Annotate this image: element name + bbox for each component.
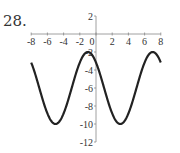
x-tick-label: -8 <box>27 36 35 47</box>
y-tick-label: -10 <box>80 119 93 130</box>
y-tick-label: -4 <box>85 65 93 76</box>
x-tick-label: 2 <box>110 36 115 47</box>
y-tick-label: 2 <box>88 11 93 22</box>
y-tick-label: -6 <box>85 83 93 94</box>
sinusoid-chart: -8-6-4-2024682-2-4-6-8-10-12 <box>0 0 180 153</box>
y-tick-label: -12 <box>80 137 93 148</box>
x-tick-label: 6 <box>142 36 147 47</box>
x-tick-label: 0 <box>90 36 95 47</box>
x-tick-label: 8 <box>158 36 163 47</box>
y-tick-label: -8 <box>85 101 93 112</box>
axes <box>31 16 161 142</box>
x-tick-label: -6 <box>43 36 51 47</box>
tick-labels: -8-6-4-2024682-2-4-6-8-10-12 <box>27 11 163 148</box>
x-tick-label: -4 <box>59 36 67 47</box>
x-tick-label: -2 <box>76 36 84 47</box>
x-tick-label: 4 <box>126 36 131 47</box>
